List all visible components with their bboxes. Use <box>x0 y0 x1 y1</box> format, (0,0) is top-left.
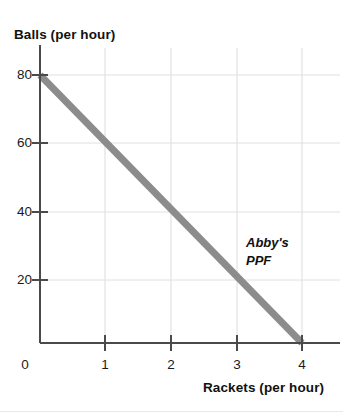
gridlines-horizontal <box>40 75 340 280</box>
x-axis-label: Rackets (per hour) <box>203 380 324 395</box>
xtick-label-3: 3 <box>227 358 247 372</box>
xtick-label-0: 0 <box>15 358 35 372</box>
xtick-label-1: 1 <box>95 358 115 372</box>
bottom-divider <box>0 411 343 412</box>
ppf-chart: Balls (per hour) <box>0 0 343 420</box>
series-annotation-ppf: PPF <box>246 253 271 269</box>
ytick-label-40: 40 <box>4 205 32 219</box>
series-annotation-abbys: Abby's <box>246 235 289 251</box>
xtick-label-4: 4 <box>292 358 312 372</box>
axes <box>40 45 340 343</box>
ytick-label-20: 20 <box>4 273 32 287</box>
xtick-label-2: 2 <box>161 358 181 372</box>
y-axis-label: Balls (per hour) <box>14 27 115 42</box>
ytick-label-80: 80 <box>4 68 32 82</box>
ytick-label-60: 60 <box>4 136 32 150</box>
